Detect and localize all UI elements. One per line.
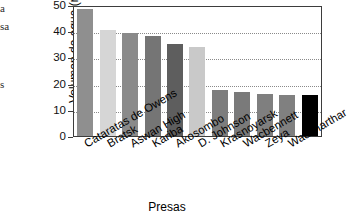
- page-edge-fragment-1: a: [0, 2, 14, 14]
- y-axis-tick-mark: [68, 137, 73, 138]
- y-axis-tick-label: 40: [40, 26, 66, 38]
- y-axis-tick-label: 20: [40, 79, 66, 91]
- y-axis-tick-label: 10: [40, 105, 66, 117]
- page-edge-fragment-3: s: [0, 78, 14, 90]
- page-edge-fragment-2: sa: [0, 20, 14, 32]
- x-axis-tick-labels: Cataratas de OwensBratskAswan HighKariba…: [73, 139, 322, 199]
- y-axis-tick-label: 50: [40, 0, 66, 12]
- y-axis-tick-label: 0: [40, 131, 66, 143]
- x-axis-title: Presas: [0, 200, 334, 214]
- bar: [77, 9, 93, 136]
- y-axis-tick-label: 30: [40, 52, 66, 64]
